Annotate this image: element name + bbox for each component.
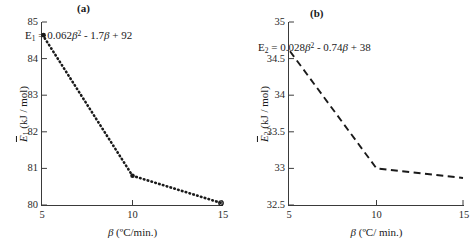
panel-b-xtick-marks [377,200,464,205]
panel-a-xtick-10: 10 [127,210,138,221]
panel-a-ytick-84: 84 [28,53,39,64]
panel-a-ytick-marks [42,22,47,205]
panel-b-yaxis-title: E2 (kJ / mol) [258,86,272,142]
panel-b-xtick-15: 15 [459,210,470,221]
figure-container: (a) E1 = 0.062β2 - 1.7β + 92 [0,0,473,252]
panel-b-plot-area: 35 34.5 34 33.5 33 32.5 5 10 15 β (ºC/ m… [288,22,464,206]
panel-a-ytick-81: 81 [28,163,39,174]
panel-a-canvas [42,22,223,205]
panel-b: (b) E2 = 0.028β2 - 0.74β + 38 [236,0,472,252]
panel-b-label-text: (b) [310,7,323,19]
panel-b-yaxis-symbol: E [258,135,270,142]
panel-a-xtick-5: 5 [39,210,44,221]
panel-a-yaxis-units: (kJ / mol) [17,86,29,132]
panel-a-xaxis-title: β (ºC/min.) [108,226,157,238]
panel-b-ytick-marks [289,22,294,205]
panel-b-ytick-34-5: 34.5 [267,53,285,64]
panel-b-ytick-34: 34 [275,90,286,101]
panel-a-plot-area: 85 84 83 82 81 80 5 10 15 β (ºC/min.) E1… [41,22,223,206]
panel-a-ytick-85: 85 [28,17,39,28]
panel-b-yaxis-units: (kJ / mol) [258,86,270,132]
panel-b-xaxis-units: (ºC/ min.) [356,226,403,238]
panel-a-point-start [41,33,46,38]
panel-a-label: (a) [77,2,90,14]
panel-a-yaxis-symbol: E [17,135,29,142]
panel-a-ytick-80: 80 [28,200,39,211]
panel-b-label: (b) [310,7,323,19]
panel-b-xtick-5: 5 [286,210,291,221]
panel-a-xtick-15: 15 [218,210,229,221]
panel-b-xtick-10: 10 [371,210,382,221]
eq-a-lhs: E [25,29,32,41]
panel-a-yaxis-title: E1 (kJ / mol) [17,86,31,142]
panel-b-series-line [290,51,463,178]
panel-b-xaxis-title: β (ºC/ min.) [351,226,403,238]
panel-a: (a) E1 = 0.062β2 - 1.7β + 92 [0,0,236,252]
panel-b-ytick-35: 35 [275,17,286,28]
panel-a-xtick-marks [133,200,223,205]
panel-a-point-kink [130,173,135,178]
panel-a-label-text: (a) [77,2,90,14]
panel-b-ytick-32-5: 32.5 [267,200,285,211]
eq-b-lhs: E [258,41,265,53]
panel-b-canvas [289,22,464,205]
panel-a-xaxis-units: (ºC/min.) [113,226,157,238]
panel-b-ytick-33: 33 [275,163,286,174]
